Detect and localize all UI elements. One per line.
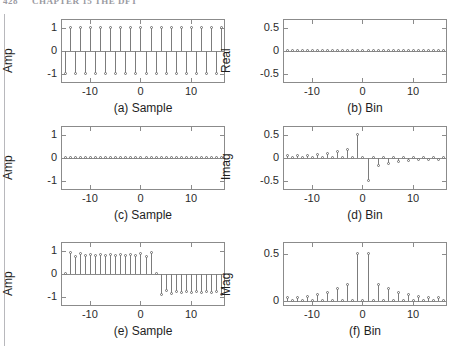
stem-marker-f [316,293,319,296]
stem-marker-f [356,252,359,255]
stem-marker-f [306,295,309,298]
y-axis-title-f: Mag [219,273,233,296]
stem-f [357,254,358,301]
plot-area-f [284,243,446,305]
x-tick-top-f [312,243,313,247]
stem-marker-f [417,295,420,298]
stem-f [337,289,338,301]
stem-f [327,293,328,301]
y-tick-label-f: 0 [241,294,279,306]
stem-marker-f [392,299,395,302]
x-tick-top-f [413,243,414,247]
stem-marker-f [286,296,289,299]
stem-marker-f [361,299,364,302]
stem-marker-f [341,299,344,302]
axes-f [283,242,447,306]
stem-f [368,254,369,301]
stem-marker-f [367,252,370,255]
stem-marker-f [372,299,375,302]
panel-caption-f: (f) Bin [295,324,435,338]
stem-marker-f [437,296,440,299]
stem-marker-f [336,287,339,290]
y-tick-right-f [442,254,446,255]
stem-marker-f [402,299,405,302]
stem-f [398,293,399,301]
stem-marker-f [331,299,334,302]
x-tick-label-f: -10 [292,308,332,320]
stem-f [388,289,389,301]
stem-f [378,285,379,301]
stem-marker-f [311,299,314,302]
y-tick-f [284,301,288,302]
stem-marker-f [301,299,304,302]
stem-marker-f [427,296,430,299]
stem-marker-f [351,299,354,302]
y-tick-label-f: 0.5 [241,247,279,259]
stem-f [347,285,348,301]
stem-marker-f [377,283,380,286]
stem-marker-f [397,291,400,294]
figure-page: 428CHAPTER 15 THE DFT -10010-101(a) Samp… [0,0,456,361]
x-tick-label-f: 0 [342,308,382,320]
x-tick-label-f: 10 [393,308,433,320]
stem-marker-f [326,291,329,294]
stem-marker-f [346,283,349,286]
stem-marker-f [407,293,410,296]
stem-marker-f [412,299,415,302]
x-tick-top-f [362,243,363,247]
stem-marker-f [442,299,445,302]
stem-marker-f [387,287,390,290]
stem-marker-f [422,299,425,302]
y-tick-f [284,254,288,255]
chart-panel-f: -1001000.5(f) BinMag [0,0,456,361]
stem-marker-f [321,299,324,302]
stem-marker-f [296,296,299,299]
stem-marker-f [432,299,435,302]
stem-marker-f [382,299,385,302]
stem-marker-f [291,299,294,302]
